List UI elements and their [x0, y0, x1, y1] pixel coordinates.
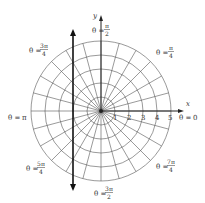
tick-3: 3 [141, 114, 145, 122]
svg-text:θ =: θ = [92, 27, 104, 35]
svg-text:θ =: θ = [156, 49, 168, 57]
grid-ray [66, 50, 101, 111]
line-bottom-arrow-icon [70, 184, 76, 191]
svg-text:π: π [169, 44, 173, 51]
grid-ray [101, 76, 162, 111]
x-axis-label: x [186, 100, 190, 108]
grid-ray [101, 93, 169, 111]
grid-ray [66, 111, 101, 172]
svg-text:2: 2 [107, 193, 111, 200]
grid-ray [83, 43, 101, 111]
svg-text:4: 4 [169, 166, 173, 173]
x-axis-arrow-icon [178, 109, 184, 113]
grid-ray [101, 43, 119, 111]
grid-ray [101, 62, 150, 111]
svg-text:2: 2 [105, 30, 109, 37]
svg-text:4: 4 [39, 168, 43, 175]
svg-text:7π: 7π [167, 158, 175, 165]
grid-ray [52, 62, 101, 111]
svg-text:4: 4 [42, 50, 46, 57]
label-theta-pi: θ = π [8, 114, 27, 122]
grid-ray [101, 50, 136, 111]
polar-grid-diagram: x y 1 2 3 4 5 θ = 0 θ = π θ = π 2 [0, 0, 205, 203]
grid-ray [40, 76, 101, 111]
grid-ray [83, 111, 101, 179]
radial-ticks: 1 2 3 4 5 [113, 114, 172, 122]
svg-text:4: 4 [169, 52, 173, 59]
y-axis-arrow-icon [99, 15, 103, 21]
tick-5: 5 [168, 114, 172, 122]
svg-text:5π: 5π [37, 160, 45, 167]
tick-2: 2 [127, 114, 131, 122]
svg-text:θ =: θ = [179, 114, 191, 122]
svg-text:3π: 3π [40, 42, 48, 49]
svg-text:π: π [22, 114, 27, 122]
line-top-arrow-icon [70, 29, 76, 36]
y-axis-label: y [92, 12, 98, 20]
vertical-line-x-eq-neg2 [70, 29, 76, 191]
svg-text:θ =: θ = [8, 114, 20, 122]
label-theta-3pi-over-4: θ = 3π 4 [29, 42, 48, 57]
grid-ray [33, 93, 101, 111]
grid-ray [52, 111, 101, 160]
grid-ray [40, 111, 101, 146]
label-theta-5pi-over-4: θ = 5π 4 [26, 160, 45, 175]
label-theta-7pi-over-4: θ = 7π 4 [156, 158, 175, 173]
svg-text:π: π [105, 22, 109, 29]
tick-1: 1 [113, 114, 117, 122]
label-theta-3pi-over-2: θ = 3π 2 [94, 185, 113, 200]
tick-4: 4 [155, 114, 160, 122]
label-theta-pi-over-4: θ = π 4 [156, 44, 174, 59]
svg-text:3π: 3π [105, 185, 113, 192]
label-theta-0: θ = 0 [179, 114, 197, 122]
svg-text:0: 0 [193, 114, 197, 122]
grid-ray [33, 111, 101, 129]
